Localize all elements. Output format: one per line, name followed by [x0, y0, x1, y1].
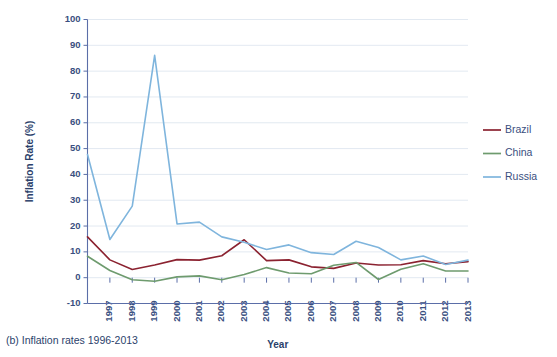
data-series-group [88, 55, 469, 281]
y-tick-label: 30 [70, 194, 81, 205]
legend-label-russia: Russia [505, 170, 537, 182]
y-tick-label: 40 [70, 168, 81, 179]
x-axis-title: Year [267, 339, 288, 350]
y-tick-label: 20 [70, 220, 81, 231]
series-line-brazil [88, 237, 469, 270]
y-axis-title: Inflation Rate (%) [24, 121, 35, 203]
y-tick-label: 0 [75, 271, 80, 282]
y-tick-label: 50 [70, 142, 81, 153]
y-tick-label: 80 [70, 65, 81, 76]
y-tick-label: 100 [65, 13, 81, 24]
y-tick-label: 90 [70, 39, 81, 50]
figure-caption: (b) Inflation rates 1996-2013 [6, 334, 138, 346]
y-tick-labels-group: -100102030405060708090100 [65, 13, 81, 308]
legend-label-china: China [505, 146, 533, 158]
y-tick-label: 10 [70, 245, 81, 256]
chart-canvas: -100102030405060708090100 19971998199920… [0, 0, 557, 357]
legend: BrazilChinaRussia [483, 123, 537, 182]
legend-label-brazil: Brazil [505, 123, 531, 135]
y-tick-label: -10 [67, 297, 81, 308]
y-tick-label: 60 [70, 116, 81, 127]
inflation-rate-chart-figure: -100102030405060708090100 19971998199920… [0, 0, 557, 357]
gridlines-group [88, 20, 469, 278]
y-tick-marks-group [84, 20, 88, 304]
series-line-russia [88, 55, 469, 264]
y-tick-label: 70 [70, 90, 81, 101]
